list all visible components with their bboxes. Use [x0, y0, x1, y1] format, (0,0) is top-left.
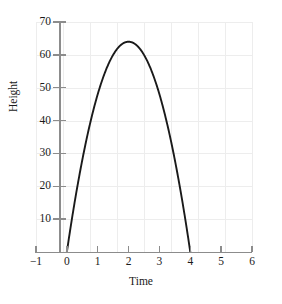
gridline-vertical: [252, 22, 253, 252]
y-axis-tick-label: 50: [21, 82, 51, 94]
x-axis-tick-label: −1: [23, 256, 49, 268]
x-axis-label: Time: [0, 276, 282, 288]
y-axis-tick: [53, 87, 59, 88]
y-axis-tick-inner: [61, 87, 66, 88]
y-axis-tick-label: 70: [21, 16, 51, 28]
x-axis-tick: [35, 246, 36, 252]
x-axis-tick-label: 4: [177, 256, 203, 268]
y-axis-tick: [53, 153, 59, 154]
y-axis-tick-inner: [61, 21, 66, 22]
x-axis-tick: [251, 246, 252, 252]
x-axis-tick-label: 0: [54, 256, 80, 268]
y-axis-tick: [53, 21, 59, 22]
y-axis-tick-inner: [61, 153, 66, 154]
x-axis-tick: [66, 246, 67, 252]
y-axis-tick-inner: [61, 186, 66, 187]
x-axis-tick: [128, 246, 129, 252]
x-axis-tick-label: 5: [208, 256, 234, 268]
x-axis-tick-label: 3: [146, 256, 172, 268]
y-axis-tick-label: 30: [21, 147, 51, 159]
y-axis-tick-label: 60: [21, 49, 51, 61]
x-axis-tick-label: 2: [116, 256, 142, 268]
y-axis-tick: [53, 218, 59, 219]
x-axis-tick-label: 1: [85, 256, 111, 268]
y-axis-tick: [53, 120, 59, 121]
x-axis-tick: [159, 246, 160, 252]
y-axis-tick-label: 10: [21, 213, 51, 225]
y-axis-tick: [53, 186, 59, 187]
y-axis-tick-label: 20: [21, 180, 51, 192]
chart-figure: 10203040506070−10123456 Height Time: [0, 0, 282, 304]
y-axis-label: Height: [8, 81, 20, 112]
x-axis-tick: [190, 246, 191, 252]
y-axis-tick-label: 40: [21, 115, 51, 127]
y-axis-tick-inner: [61, 54, 66, 55]
x-axis-line: [35, 252, 252, 254]
y-axis-tick-inner: [61, 218, 66, 219]
x-axis-tick: [220, 246, 221, 252]
y-axis-tick: [53, 54, 59, 55]
x-axis-tick: [97, 246, 98, 252]
plot-area: [36, 22, 252, 252]
data-curve: [36, 22, 252, 252]
x-axis-tick-label: 6: [239, 256, 265, 268]
y-axis-tick-inner: [61, 120, 66, 121]
